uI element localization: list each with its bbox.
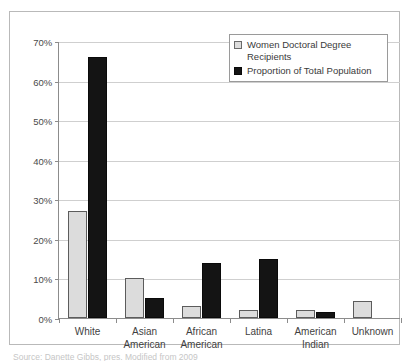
bars-layer [59, 42, 400, 318]
y-axis-tick-label: 30% [33, 195, 52, 206]
bar [239, 310, 258, 318]
y-axis-tick-label: 40% [33, 155, 52, 166]
legend-swatch-dark-icon [234, 67, 242, 75]
bar-group [59, 42, 116, 318]
source-caption: Source: Danette Gibbs, pres. Modified fr… [13, 352, 198, 361]
y-axis-tick-label: 60% [33, 76, 52, 87]
y-axis-tick-label: 0% [38, 314, 52, 325]
legend-item-proportion-of-total-population: Proportion of Total Population [234, 65, 382, 77]
x-axis-tick [287, 318, 288, 323]
legend-item-women-doctoral-degree-recipients: Women Doctoral Degree Recipients [234, 39, 382, 62]
bar-group [173, 42, 230, 318]
bar [296, 310, 315, 318]
bar [353, 301, 372, 318]
legend-swatch-light-icon [234, 41, 242, 49]
x-axis-tick [59, 318, 60, 323]
x-axis-tick [401, 318, 402, 323]
y-axis-tick-label: 50% [33, 116, 52, 127]
y-axis-tick-label: 10% [33, 274, 52, 285]
chart-legend: Women Doctoral Degree Recipients Proport… [229, 34, 388, 82]
bar [202, 263, 221, 318]
y-axis-tick-label: 20% [33, 234, 52, 245]
legend-label: Women Doctoral Degree Recipients [247, 39, 382, 62]
legend-label: Proportion of Total Population [247, 65, 371, 77]
bar-group [344, 42, 401, 318]
x-axis-tick [116, 318, 117, 323]
x-axis-category-label: Unknown [338, 326, 408, 339]
bar [259, 259, 278, 318]
bar [182, 306, 201, 318]
chart-plot-area: 0%10%20%30%40%50%60%70% WhiteAsian Ameri… [58, 42, 400, 319]
bar-group [287, 42, 344, 318]
x-axis-tick [230, 318, 231, 323]
figure-frame: 0%10%20%30%40%50%60%70% WhiteAsian Ameri… [9, 11, 400, 345]
bar [68, 211, 87, 318]
x-axis-tick [344, 318, 345, 323]
bar [125, 278, 144, 318]
bar [88, 57, 107, 318]
bar-group [230, 42, 287, 318]
x-axis-tick [173, 318, 174, 323]
bar [316, 312, 335, 318]
bar-group [116, 42, 173, 318]
bar [145, 298, 164, 318]
y-axis-tick-label: 70% [33, 37, 52, 48]
